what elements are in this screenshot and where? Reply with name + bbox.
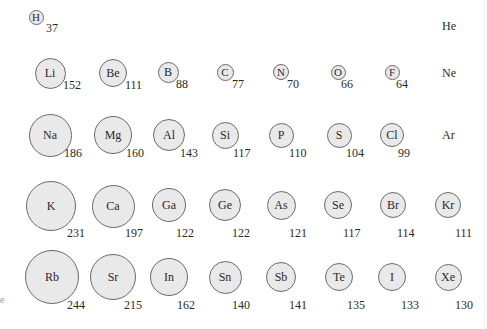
atomic-radius-value: 66 bbox=[341, 78, 353, 90]
element-symbol: Sn bbox=[219, 271, 232, 283]
element-symbol: N bbox=[277, 67, 285, 78]
element-symbol: O bbox=[334, 67, 342, 78]
element-symbol: In bbox=[164, 271, 174, 283]
atomic-radius-value: 114 bbox=[397, 227, 415, 239]
element-symbol: C bbox=[221, 67, 228, 78]
atomic-radii-diagram: H37Li152Be111B88C77N70O66F64Na186Mg160Al… bbox=[0, 0, 487, 329]
noble-gas-label-ar: Ar bbox=[442, 129, 455, 141]
element-symbol: Br bbox=[387, 199, 399, 211]
element-symbol: Be bbox=[106, 67, 119, 79]
atomic-radius-value: 77 bbox=[232, 78, 244, 90]
atomic-radius-value: 231 bbox=[67, 227, 85, 239]
atom-sr: Sr bbox=[90, 254, 136, 300]
atomic-radius-value: 111 bbox=[455, 227, 472, 239]
atomic-radius-value: 143 bbox=[180, 147, 198, 159]
atom-se: Se bbox=[324, 191, 352, 219]
element-symbol: Xe bbox=[441, 271, 455, 283]
atom-in: In bbox=[150, 258, 188, 296]
element-symbol: Cl bbox=[386, 129, 397, 141]
atomic-radius-value: 104 bbox=[346, 147, 364, 159]
atomic-radius-value: 152 bbox=[63, 79, 81, 91]
element-symbol: Ga bbox=[162, 199, 176, 211]
element-symbol: F bbox=[389, 67, 395, 78]
atom-li: Li bbox=[35, 58, 66, 89]
atomic-radius-value: 117 bbox=[343, 227, 361, 239]
element-symbol: Li bbox=[45, 67, 56, 79]
element-symbol: H bbox=[32, 12, 40, 23]
atomic-radius-value: 111 bbox=[125, 79, 142, 91]
atomic-radius-value: 37 bbox=[46, 22, 58, 34]
atomic-radius-value: 244 bbox=[67, 299, 85, 311]
atomic-radius-value: 117 bbox=[233, 147, 251, 159]
left-edge-mark: e bbox=[0, 294, 4, 305]
atom-as: As bbox=[267, 191, 296, 220]
atomic-radius-value: 70 bbox=[287, 78, 299, 90]
element-symbol: Si bbox=[220, 129, 230, 141]
element-symbol: Te bbox=[333, 271, 345, 283]
atom-te: Te bbox=[325, 263, 353, 291]
atom-ga: Ga bbox=[152, 188, 186, 222]
atom-ca: Ca bbox=[92, 185, 135, 228]
atom-p: P bbox=[269, 123, 294, 148]
element-symbol: P bbox=[278, 129, 285, 141]
element-symbol: Ca bbox=[106, 200, 119, 212]
atomic-radius-value: 110 bbox=[289, 147, 307, 159]
atomic-radius-value: 64 bbox=[396, 78, 408, 90]
atom-cl: Cl bbox=[380, 123, 404, 147]
element-symbol: As bbox=[274, 199, 287, 211]
atom-i: I bbox=[378, 263, 406, 291]
atomic-radius-value: 99 bbox=[398, 147, 410, 159]
atom-sb: Sb bbox=[266, 262, 296, 292]
atom-c: C bbox=[217, 64, 234, 81]
element-symbol: Se bbox=[332, 199, 344, 211]
element-symbol: S bbox=[336, 129, 343, 141]
atomic-radius-value: 186 bbox=[64, 147, 82, 159]
element-symbol: Mg bbox=[105, 129, 122, 141]
atomic-radius-value: 140 bbox=[232, 299, 250, 311]
atom-rb: Rb bbox=[25, 250, 79, 304]
atom-xe: Xe bbox=[435, 264, 462, 291]
atom-k: K bbox=[26, 181, 76, 231]
element-symbol: Rb bbox=[45, 271, 59, 283]
element-symbol: Al bbox=[163, 129, 175, 141]
atomic-radius-value: 121 bbox=[289, 227, 307, 239]
element-symbol: Sr bbox=[108, 271, 119, 283]
atomic-radius-value: 130 bbox=[455, 299, 473, 311]
element-symbol: Sb bbox=[275, 271, 288, 283]
atom-ge: Ge bbox=[209, 189, 241, 221]
atom-s: S bbox=[327, 123, 352, 148]
element-symbol: Ge bbox=[218, 199, 232, 211]
atom-si: Si bbox=[212, 122, 239, 149]
atomic-radius-value: 122 bbox=[176, 227, 194, 239]
atom-be: Be bbox=[99, 59, 127, 87]
element-symbol: Na bbox=[43, 129, 57, 141]
atomic-radius-value: 133 bbox=[401, 299, 419, 311]
atomic-radius-value: 197 bbox=[125, 227, 143, 239]
atom-br: Br bbox=[380, 192, 406, 218]
atomic-radius-value: 215 bbox=[124, 299, 142, 311]
atomic-radius-value: 122 bbox=[232, 227, 250, 239]
atomic-radius-value: 160 bbox=[126, 147, 144, 159]
atom-sn: Sn bbox=[209, 261, 242, 294]
noble-gas-label-ne: Ne bbox=[442, 67, 456, 79]
element-symbol: B bbox=[164, 66, 172, 78]
atomic-radius-value: 141 bbox=[289, 299, 307, 311]
atomic-radius-value: 88 bbox=[176, 78, 188, 90]
atomic-radius-value: 162 bbox=[177, 299, 195, 311]
atom-kr: Kr bbox=[435, 192, 461, 218]
element-symbol: I bbox=[390, 271, 394, 283]
right-edge-shade bbox=[481, 0, 487, 329]
element-symbol: K bbox=[47, 200, 56, 212]
noble-gas-label-he: He bbox=[442, 20, 456, 32]
atom-h: H bbox=[29, 10, 44, 25]
atomic-radius-value: 135 bbox=[347, 299, 365, 311]
element-symbol: Kr bbox=[442, 199, 455, 211]
